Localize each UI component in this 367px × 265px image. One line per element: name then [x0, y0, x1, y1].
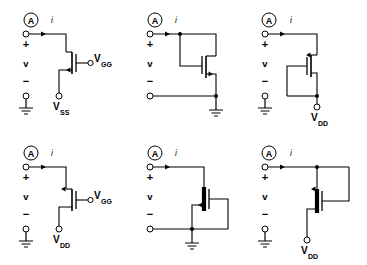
top-terminal-icon [147, 31, 153, 37]
port-marker-label: A [152, 16, 159, 26]
voltage-label: v [147, 58, 153, 69]
source-arrow-icon [198, 203, 203, 208]
source-supply-label: V [53, 101, 60, 112]
ground-icon [19, 108, 33, 114]
current-label: i [290, 148, 293, 158]
top-terminal-icon [262, 164, 268, 170]
top-wire [153, 167, 204, 187]
drain-arrow-icon [61, 187, 66, 192]
circuit-5: A i + v − [124, 133, 246, 265]
top-terminal-icon [147, 164, 153, 170]
current-label: i [290, 15, 293, 25]
supply-terminal-icon [304, 237, 310, 243]
current-label: i [175, 15, 178, 25]
voltage-label: v [23, 58, 29, 69]
circuit-5-schematic: A i + v − [124, 133, 246, 265]
plus-sign: + [23, 171, 29, 183]
minus-sign: − [262, 75, 268, 87]
port-marker-label: A [266, 16, 273, 26]
circuit-3-schematic: A i + v − V DD [245, 0, 367, 132]
gate-terminal-icon [88, 60, 93, 65]
supply-subscript: DD [318, 120, 328, 127]
top-terminal-icon [262, 31, 268, 37]
voltage-label: v [147, 191, 153, 202]
plus-sign: + [23, 38, 29, 50]
current-label: i [51, 148, 54, 158]
top-wire [268, 34, 317, 55]
gate-supply-label: V [94, 190, 101, 201]
source-terminal-icon [56, 226, 62, 232]
gate-feedback-wire [287, 66, 307, 96]
bottom-terminal-icon [23, 93, 29, 99]
current-arrow-icon [41, 164, 46, 169]
plus-sign: + [262, 38, 268, 50]
current-arrow-icon [280, 164, 285, 169]
source-stub [311, 73, 317, 96]
supply-label: V [301, 245, 308, 256]
voltage-label: v [262, 58, 268, 69]
ground-icon [258, 108, 272, 114]
top-wire [29, 167, 66, 189]
circuit-4: A i + v − V GG V DD [0, 133, 122, 265]
supply-subscript: DD [308, 253, 318, 260]
source-arrow-icon [66, 68, 71, 73]
source-arrow-icon [209, 72, 214, 77]
gate-supply-label: V [94, 53, 101, 64]
minus-sign: − [262, 208, 268, 220]
source-terminal-icon [56, 93, 62, 99]
top-terminal-icon [23, 31, 29, 37]
circuit-1: A i + v − V GG [0, 0, 122, 132]
current-arrow-icon [41, 31, 46, 36]
current-arrow-icon [280, 31, 285, 36]
circuit-3: A i + v − V DD [245, 0, 367, 132]
plus-sign: + [147, 171, 153, 183]
circuit-6: A i + v − V DD [245, 133, 367, 265]
minus-sign: − [147, 208, 153, 220]
minus-sign: − [147, 75, 153, 87]
circuit-4-schematic: A i + v − V GG V DD [0, 133, 122, 265]
gate-terminal-icon [88, 197, 93, 202]
gate-supply-subscript: GG [101, 198, 112, 205]
source-stub [307, 209, 317, 237]
current-arrow-icon [165, 164, 170, 169]
ground-icon [185, 243, 199, 249]
current-label: i [51, 15, 54, 25]
bottom-terminal-icon [262, 226, 268, 232]
current-label: i [175, 148, 178, 158]
ground-icon [19, 241, 33, 247]
circuit-2-schematic: A i + v − [124, 0, 246, 132]
bottom-terminal-icon [262, 93, 268, 99]
figure-sheet: A i + v − V GG [0, 0, 367, 265]
minus-sign: − [23, 75, 29, 87]
bottom-terminal-icon [147, 226, 153, 232]
drain-arrow-icon [311, 187, 316, 192]
source-stub [206, 74, 216, 96]
port-marker-label: A [28, 149, 35, 159]
source-stub [59, 70, 72, 96]
gate-feedback-wire [322, 167, 349, 201]
gate-supply-subscript: GG [101, 61, 112, 68]
voltage-label: v [262, 191, 268, 202]
gate-feedback-wire [180, 34, 202, 66]
source-stub [59, 207, 72, 229]
top-terminal-icon [23, 164, 29, 170]
voltage-label: v [23, 191, 29, 202]
top-wire [29, 34, 66, 52]
source-supply-label: V [53, 234, 60, 245]
plus-sign: + [262, 171, 268, 183]
port-marker-label: A [152, 149, 159, 159]
current-arrow-icon [165, 31, 170, 36]
minus-sign: − [23, 208, 29, 220]
port-marker-label: A [28, 16, 35, 26]
bottom-terminal-icon [23, 226, 29, 232]
source-supply-subscript: SS [60, 109, 70, 116]
ground-icon [209, 110, 223, 116]
ground-icon [258, 241, 272, 247]
top-wire [153, 34, 216, 56]
circuit-6-schematic: A i + v − V DD [245, 133, 367, 265]
drain-arrow-icon [306, 53, 311, 58]
supply-terminal-icon [314, 104, 320, 110]
plus-sign: + [147, 38, 153, 50]
source-supply-subscript: DD [60, 242, 70, 249]
bottom-terminal-icon [147, 93, 153, 99]
